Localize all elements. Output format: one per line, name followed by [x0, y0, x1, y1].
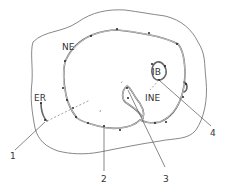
- callout-2: 2: [101, 174, 107, 184]
- invagination: [123, 86, 144, 118]
- label-er: ER: [34, 93, 46, 103]
- label-ib: IB: [152, 67, 161, 77]
- callout-1: 1: [10, 151, 16, 161]
- leader-4: [160, 81, 211, 126]
- dashed-mark-ine: [121, 81, 123, 83]
- label-ine: INE: [145, 93, 160, 103]
- cell-outline: [31, 10, 206, 154]
- leader-1: [15, 122, 45, 150]
- er-strand: [41, 103, 47, 121]
- cell-diagram: NE ER IB INE 1 2 3 4: [0, 0, 226, 195]
- callout-4: 4: [210, 128, 216, 138]
- label-ne: NE: [62, 42, 75, 52]
- nuclear-envelope: [63, 30, 185, 128]
- callout-3: 3: [163, 174, 169, 184]
- dashed-mark-center: [100, 109, 101, 112]
- dashed-line-ib: [150, 80, 159, 90]
